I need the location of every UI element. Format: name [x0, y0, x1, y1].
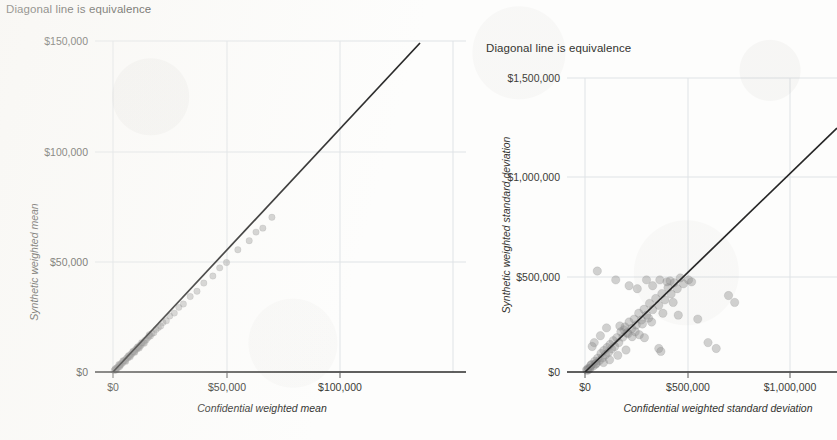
data-point: [712, 344, 720, 352]
data-point: [666, 277, 674, 285]
x-axis-title-mean: Confidential weighted mean: [197, 402, 327, 414]
x-axis-ticks-mean: $0 $50,000 $100,000: [107, 381, 362, 393]
x-axis-tick-marks-mean: [113, 372, 340, 378]
data-point: [724, 291, 732, 299]
chart-panel-mean: Diagonal line is equivalence $150,000 $1…: [0, 0, 466, 440]
data-point: [269, 214, 275, 220]
data-point: [602, 324, 610, 332]
data-point: [194, 288, 200, 294]
y-tick-label: $1,500,000: [507, 72, 560, 84]
data-point: [633, 285, 641, 293]
gridlines-mean: [95, 41, 466, 372]
data-point: [180, 301, 186, 307]
data-points-mean: [111, 214, 275, 374]
data-point: [648, 282, 656, 290]
y-axis-title-stddev: Synthetic weighted standard deviation: [500, 136, 512, 313]
data-point: [640, 334, 648, 342]
data-point: [657, 347, 665, 355]
data-point: [605, 356, 613, 364]
x-tick-label: $0: [107, 381, 119, 393]
y-tick-label: $50,000: [50, 256, 88, 268]
x-axis-tick-marks-stddev: [585, 372, 790, 378]
y-axis-title-mean: Synthetic weighted mean: [28, 203, 40, 320]
data-point: [625, 282, 633, 290]
y-tick-label: $1,000,000: [507, 171, 560, 183]
scatter-plot-mean: $150,000 $100,000 $50,000 $0 Synthetic w…: [0, 0, 466, 440]
data-point: [704, 338, 712, 346]
x-tick-label: $100,000: [318, 381, 362, 393]
data-point: [590, 338, 598, 346]
x-tick-label: $50,000: [208, 381, 246, 393]
data-point: [614, 351, 622, 359]
diagonal-equivalence-line-mean: [113, 43, 420, 372]
x-tick-label: $500,000: [666, 381, 710, 393]
data-point: [612, 276, 620, 284]
data-point: [687, 278, 695, 286]
data-point: [187, 293, 193, 299]
chart-panel-stddev: Diagonal line is equivalence $1,500,000 …: [466, 0, 837, 440]
data-point: [201, 280, 207, 286]
y-tick-label: $500,000: [516, 271, 560, 283]
data-point: [171, 310, 177, 316]
x-tick-label: $0: [579, 381, 591, 393]
data-point: [730, 298, 738, 306]
data-point: [622, 346, 630, 354]
data-point: [616, 322, 624, 330]
y-tick-label: $0: [76, 366, 88, 378]
x-tick-label: $1,000,000: [764, 381, 817, 393]
data-point: [260, 225, 266, 231]
x-axis-title-stddev: Confidential weighted standard deviation: [623, 402, 812, 414]
data-point: [694, 315, 702, 323]
scatter-plot-stddev: $1,500,000 $1,000,000 $500,000 $0 Synthe…: [466, 0, 837, 440]
data-point: [669, 298, 677, 306]
y-tick-label: $150,000: [44, 35, 88, 47]
data-point: [644, 314, 652, 322]
y-axis-ticks-stddev: $1,500,000 $1,000,000 $500,000 $0: [507, 72, 560, 378]
data-point: [223, 259, 229, 265]
y-tick-label: $100,000: [44, 146, 88, 158]
data-point: [674, 311, 682, 319]
data-point: [216, 265, 222, 271]
diagonal-equivalence-line-stddev: [585, 128, 837, 372]
y-tick-label: $0: [548, 366, 560, 378]
data-point: [210, 273, 216, 279]
data-point: [235, 247, 241, 253]
data-points-stddev: [582, 267, 738, 375]
data-point: [253, 229, 259, 235]
data-point: [596, 332, 604, 340]
data-point: [659, 309, 667, 317]
x-axis-ticks-stddev: $0 $500,000 $1,000,000: [579, 381, 816, 393]
data-point: [593, 267, 601, 275]
data-point: [246, 238, 252, 244]
y-axis-ticks-mean: $150,000 $100,000 $50,000 $0: [44, 35, 88, 378]
